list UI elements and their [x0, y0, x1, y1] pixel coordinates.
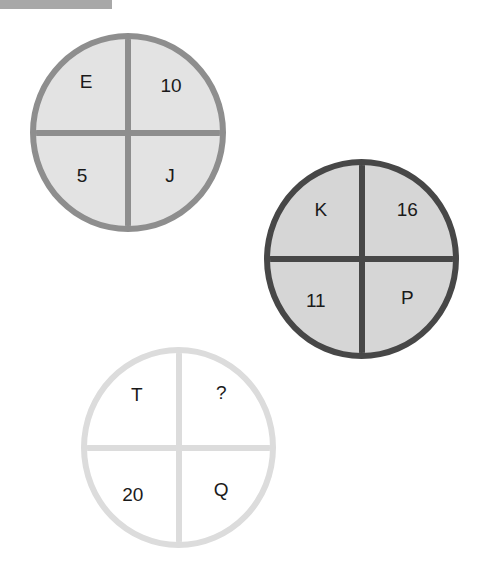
puzzle-circle-3: T ? 20 Q: [81, 347, 276, 548]
cell-bottom-right: P: [362, 259, 454, 353]
cell-top-right: 16: [362, 165, 454, 259]
cell-bottom-right: J: [128, 133, 220, 227]
cell-bottom-left: 5: [36, 133, 128, 227]
puzzle-circle-2: K 16 11 P: [264, 159, 459, 359]
cell-top-left: K: [270, 165, 362, 259]
cell-top-left: T: [87, 353, 179, 448]
puzzle-circle-1: E 10 5 J: [30, 33, 226, 232]
cell-top-right: ?: [179, 353, 271, 448]
cell-bottom-left: 11: [270, 259, 362, 353]
cell-bottom-left: 20: [87, 448, 179, 543]
cell-top-left: E: [36, 39, 128, 133]
cell-top-right: 10: [128, 39, 220, 133]
cell-bottom-right: Q: [179, 448, 271, 543]
header-tab: [0, 0, 112, 9]
